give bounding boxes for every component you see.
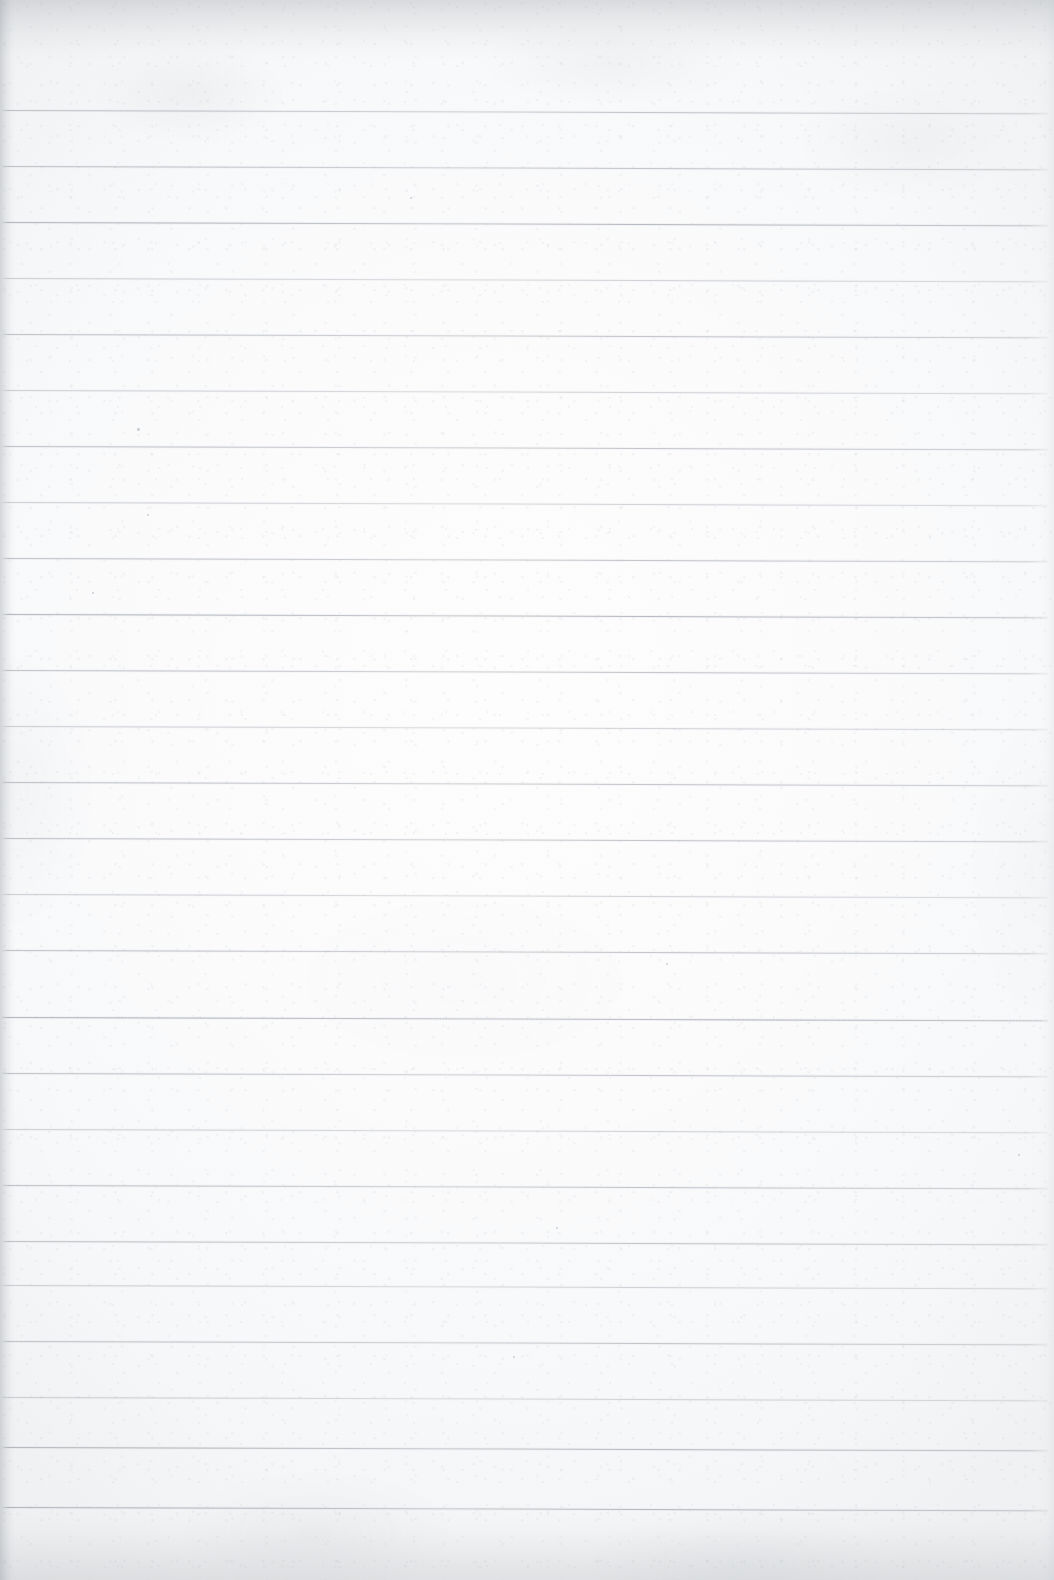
- scan-speck: [666, 963, 668, 965]
- ruled-line: [2, 782, 1048, 786]
- scan-speck: [513, 1356, 515, 1358]
- ruled-line: [2, 614, 1048, 618]
- ruled-line: [2, 558, 1048, 562]
- scanned-page: [0, 0, 1054, 1580]
- ruled-line: [2, 838, 1048, 842]
- ruled-line: [2, 166, 1048, 170]
- scan-speck: [92, 592, 94, 594]
- ruled-line: [2, 1241, 1048, 1245]
- ruled-line: [2, 222, 1048, 226]
- ruled-line: [2, 726, 1048, 730]
- ruled-line: [2, 278, 1048, 282]
- ruled-line: [2, 390, 1048, 394]
- scan-speck: [147, 514, 149, 516]
- top-edge-shadow: [0, 0, 1054, 62]
- ruled-line: [2, 1447, 1048, 1451]
- scan-speck: [556, 1227, 558, 1229]
- ruled-line: [2, 446, 1048, 450]
- bottom-edge-shadow: [0, 1508, 1054, 1580]
- ruled-line: [2, 950, 1048, 954]
- ruled-line: [2, 1017, 1048, 1021]
- ruled-line: [2, 1285, 1048, 1289]
- ruled-line: [2, 334, 1048, 338]
- ruled-line: [2, 1073, 1048, 1077]
- left-edge-shadow: [0, 0, 16, 1580]
- right-edge-shadow: [1040, 0, 1054, 1580]
- ruled-line: [2, 670, 1048, 674]
- ruled-line: [2, 502, 1048, 506]
- scan-speck: [137, 428, 140, 431]
- ruled-line: [2, 894, 1048, 898]
- ruled-line: [2, 1185, 1048, 1189]
- ruled-line: [2, 1397, 1048, 1401]
- ruled-lines-layer: [0, 0, 1054, 1580]
- ruled-line: [2, 1341, 1048, 1345]
- ruled-line: [2, 1129, 1048, 1133]
- ruled-line: [2, 110, 1048, 114]
